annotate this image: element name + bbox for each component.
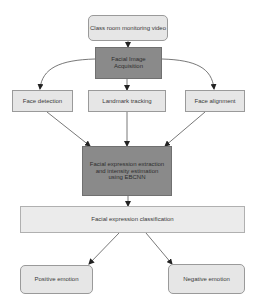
edge-acquisition-face-alignment	[162, 59, 214, 89]
node-face-detection: Face detection	[12, 90, 73, 112]
node-classroom-video: Class room monitoring video	[88, 15, 168, 41]
node-expression-extraction: Facial expression extraction and intensi…	[82, 146, 172, 196]
node-landmark-tracking: Landmark tracking	[88, 90, 166, 112]
node-label: Facial expression extraction and intensi…	[89, 161, 165, 182]
edge-face-alignment-extraction	[165, 112, 205, 146]
node-label: Negative emotion	[183, 276, 230, 283]
node-label: Positive emotion	[34, 276, 78, 283]
node-label: Face detection	[23, 98, 62, 105]
edge-acquisition-face-detection	[40, 59, 95, 89]
node-label: Facial expression classification	[91, 216, 173, 223]
node-facial-image-acquisition: Facial Image Acquisition	[95, 47, 162, 79]
node-face-alignment: Face alignment	[185, 90, 245, 112]
node-label: Class room monitoring video	[90, 25, 166, 32]
node-label: Face alignment	[194, 98, 235, 105]
node-positive-emotion: Positive emotion	[20, 265, 93, 294]
node-negative-emotion: Negative emotion	[168, 264, 245, 294]
node-label: Facial Image Acquisition	[102, 56, 155, 70]
node-expression-classification: Facial expression classification	[20, 206, 245, 233]
edge-classification-positive	[89, 233, 119, 264]
edge-face-detection-extraction	[47, 112, 90, 146]
edge-classification-negative	[146, 233, 172, 264]
node-label: Landmark tracking	[102, 98, 151, 105]
